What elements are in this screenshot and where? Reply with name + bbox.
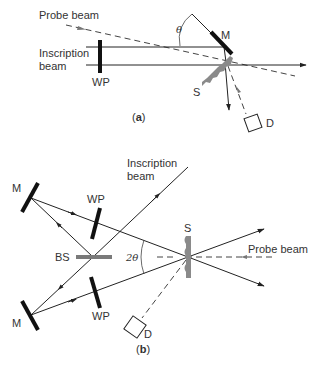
- detector-box: [244, 114, 262, 132]
- sample-label: S: [184, 222, 191, 234]
- diagram-canvas: Probe beam Inscription beam WP M S D θ (…: [0, 0, 317, 366]
- beam-splitter-label: BS: [55, 251, 70, 263]
- two-theta-label: 2θ: [125, 252, 138, 263]
- mirror-top: [22, 183, 38, 212]
- bs-top-arrow-icon: [58, 224, 62, 228]
- panel-a-caption-letter: a: [136, 111, 143, 123]
- top-arm-beam: [31, 198, 188, 257]
- mirror-top-label: M: [12, 182, 21, 194]
- inscription-beam-label-1: Inscription: [127, 157, 177, 169]
- inscription-beam-label-2: beam: [127, 170, 155, 182]
- detector-box: [124, 316, 146, 338]
- bottom-arm-beam: [31, 257, 188, 315]
- detector-label: D: [266, 117, 274, 129]
- inscription-arrow-icon: [152, 195, 158, 201]
- sample-label: S: [193, 86, 200, 98]
- mirror-bottom-label: M: [12, 317, 21, 329]
- top-arm-arrow-icon: [68, 212, 74, 214]
- panel-a-caption: (a): [132, 111, 145, 123]
- detector-beam-line: [228, 66, 246, 114]
- probe-beam-label: Probe beam: [248, 243, 308, 255]
- panel-b-caption: (b): [136, 343, 150, 355]
- panel-a: Probe beam Inscription beam WP M S D θ (…: [39, 9, 306, 132]
- out-beam-lower: [188, 257, 264, 286]
- two-theta-arc: [141, 240, 144, 274]
- theta-label: θ: [176, 24, 182, 35]
- inscription-beam-label-1: Inscription: [39, 47, 89, 59]
- probe-beam-label: Probe beam: [39, 9, 99, 21]
- panel-b: Inscription beam M M WP WP BS S Probe be…: [12, 157, 308, 355]
- panel-b-caption-letter: b: [140, 343, 147, 355]
- waveplate-label: WP: [92, 76, 110, 88]
- inscription-beam-label-2: beam: [39, 60, 67, 72]
- sample-grating: [202, 56, 233, 86]
- mirror-label: M: [221, 29, 230, 41]
- probe-beam-arrow-icon: [77, 26, 86, 30]
- bs-bottom-arrow-icon: [60, 284, 64, 288]
- mirror-bottom: [22, 301, 38, 330]
- detector-beam-line: [142, 260, 186, 318]
- waveplate-bottom-label: WP: [92, 310, 110, 322]
- reflected-beam-down: [225, 62, 229, 110]
- sample-plate: [185, 236, 192, 278]
- waveplate-top-label: WP: [87, 193, 105, 205]
- detector-label: D: [144, 328, 152, 340]
